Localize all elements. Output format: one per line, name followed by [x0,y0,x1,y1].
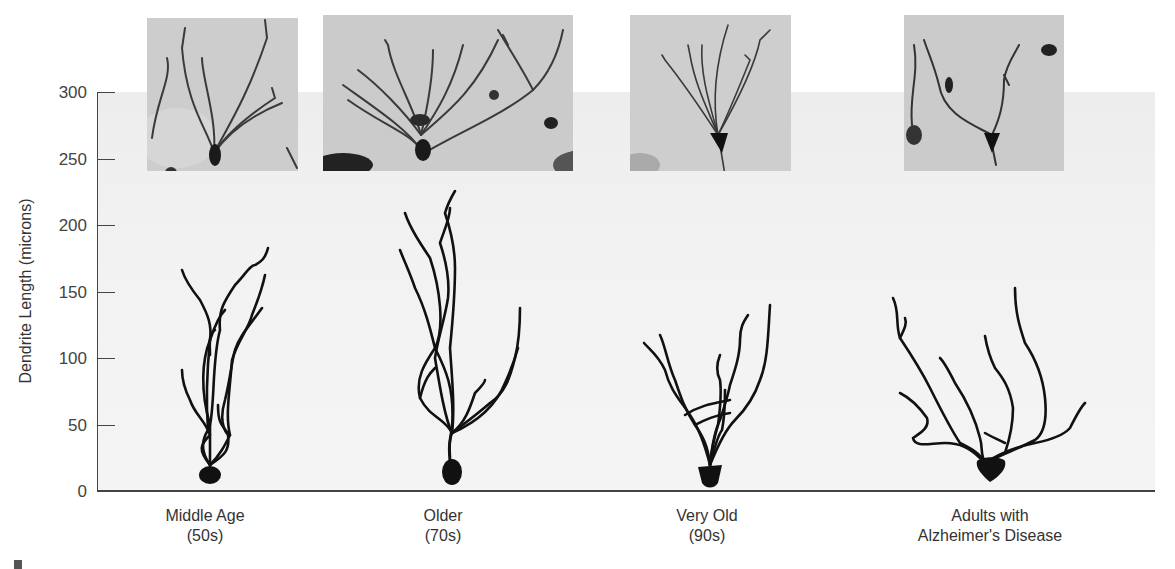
category-age: (50s) [130,526,280,546]
category-label-very-old: Very Old (90s) [632,506,782,546]
neuron-photo-icon [323,15,573,171]
micrograph-middle-age [147,18,298,171]
soma-icon [442,459,462,485]
soma-icon [977,457,1006,482]
category-name: Older [368,506,518,526]
neuron-drawing-alzheimers [885,278,1090,490]
category-label-middle-age: Middle Age (50s) [130,506,280,546]
category-name: Very Old [632,506,782,526]
neuron-drawing-very-old [640,295,780,490]
y-tick-150 [97,292,115,293]
category-age: (90s) [632,526,782,546]
neuron-photo-icon [904,15,1064,171]
y-tick-label: 250 [47,151,87,168]
category-age: (70s) [368,526,518,546]
y-axis-title: Dendrite Length (microns) [17,191,35,391]
neuron-photo-icon [630,15,791,171]
y-tick-label: 300 [47,84,87,101]
y-tick-50 [97,425,115,426]
y-tick-100 [97,358,115,359]
category-label-alzheimers: Adults with Alzheimer's Disease [880,506,1100,546]
category-name: Middle Age [130,506,280,526]
category-age: Alzheimer's Disease [880,526,1100,546]
neuron-drawing-older [390,188,530,490]
y-tick-250 [97,159,115,160]
y-tick-label: 200 [47,217,87,234]
corner-marker [14,560,22,569]
y-tick-300 [97,92,115,93]
soma-icon [698,465,722,488]
y-tick-label: 100 [47,350,87,367]
category-label-older: Older (70s) [368,506,518,546]
y-tick-label: 150 [47,284,87,301]
micrograph-alzheimers [904,15,1064,171]
y-tick-label: 50 [47,417,87,434]
x-axis-line [97,490,1155,492]
y-tick-200 [97,225,115,226]
micrograph-very-old [630,15,791,171]
category-name: Adults with [880,506,1100,526]
soma-icon [199,466,221,484]
neuron-drawing-middle-age [170,240,280,490]
neuron-photo-icon [147,18,298,171]
y-tick-label: 0 [47,483,87,500]
micrograph-older [323,15,573,171]
